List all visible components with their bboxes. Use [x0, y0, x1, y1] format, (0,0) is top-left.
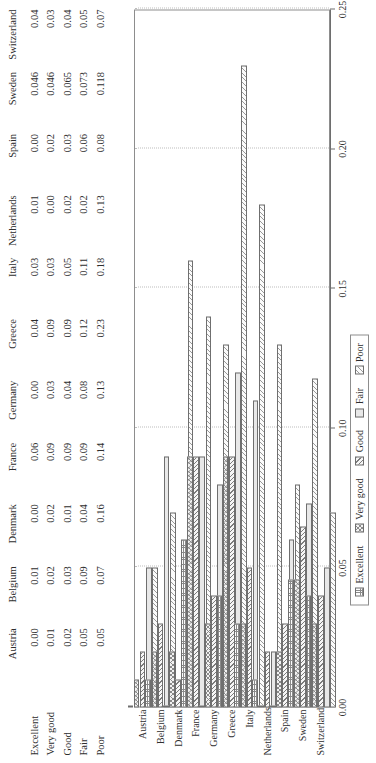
bar-switzerland-good: [318, 595, 324, 707]
legend-item-fair[interactable]: Fair: [354, 388, 365, 417]
legend-swatch-icon: [355, 408, 364, 417]
figure: AustriaBelgiumDenmarkFranceGermanyGreece…: [0, 0, 376, 763]
axis-tick: [330, 287, 335, 288]
table-row-header: Excellent: [26, 687, 43, 755]
bar-switzerland-very-good: [312, 623, 318, 707]
table-cell: 0.04: [26, 317, 43, 379]
table-cell: 0.06: [76, 131, 93, 192]
bar-belgium-very-good: [152, 651, 158, 707]
table-cell: 0.046: [26, 70, 43, 132]
axis-tick-label: 0.10: [337, 408, 348, 448]
bar-sweden-excellent: [288, 579, 294, 707]
table-cell: 0.07: [92, 564, 109, 626]
legend-swatch-icon: [355, 587, 364, 596]
table-cell: 0.065: [59, 70, 76, 132]
table-column-header-denmark: Denmark: [6, 502, 26, 564]
table-cell: 0.00: [26, 131, 43, 192]
table-cell: 0.08: [92, 131, 109, 192]
table-cell: 0.04: [59, 7, 76, 70]
table-cell: 0.03: [43, 255, 60, 316]
bar-belgium-good: [158, 623, 164, 707]
category-label-belgium: Belgium: [155, 709, 166, 755]
bar-denmark-excellent: [163, 705, 169, 707]
table-cell: 0.09: [59, 317, 76, 379]
category-label-switzerland: Switzerland: [315, 709, 326, 755]
axis-tick: [330, 8, 335, 9]
table-cell: 0.06: [26, 440, 43, 502]
rotated-figure-wrapper: AustriaBelgiumDenmarkFranceGermanyGreece…: [0, 0, 376, 763]
axis-tick-label: 0.05: [337, 547, 348, 587]
category-label-austria: Austria: [137, 709, 148, 755]
table-cell: 0.03: [59, 131, 76, 192]
table-cell: 0.04: [26, 7, 43, 70]
bar-italy-fair: [253, 400, 259, 707]
table-cell: 0.00: [26, 626, 43, 688]
legend-swatch-icon: [355, 366, 364, 375]
table-column-header-france: France: [6, 440, 26, 502]
table-cell: 0.03: [26, 255, 43, 316]
bar-switzerland-fair: [324, 567, 330, 707]
category-label-italy: Italy: [244, 709, 255, 755]
table-cell: 0.02: [59, 193, 76, 256]
table-cell: 0.09: [76, 564, 93, 626]
legend-label: Fair: [354, 388, 365, 404]
table-cell: 0.18: [92, 255, 109, 316]
bar-group-belgium: [152, 9, 170, 707]
category-label-spain: Spain: [279, 709, 290, 755]
table-cell: 0.02: [43, 131, 60, 192]
table-cell: 0.02: [43, 564, 60, 626]
legend-label: Very good: [354, 478, 365, 519]
table-row: Good0.020.030.010.090.040.090.050.020.03…: [59, 7, 76, 755]
bar-greece-very-good: [223, 456, 229, 707]
axis-tick-label: 0.00: [337, 687, 348, 727]
table-column-header-switzerland: Switzerland: [6, 7, 26, 70]
table-cell: 0.01: [43, 626, 60, 688]
bar-germany-very-good: [205, 623, 211, 707]
bar-group-italy: [241, 9, 259, 707]
legend-item-poor[interactable]: Poor: [354, 343, 365, 375]
data-table: AustriaBelgiumDenmarkFranceGermanyGreece…: [6, 7, 109, 755]
category-label-sweden: Sweden: [297, 709, 308, 755]
table-cell: 0.14: [92, 440, 109, 502]
bar-netherlands-good: [265, 651, 271, 707]
bar-denmark-very-good: [169, 651, 175, 707]
chart-block: 0.000.050.100.150.200.25 ExcellentVery g…: [132, 7, 370, 755]
bar-greece-excellent: [217, 595, 223, 707]
table-cell: 0.00: [43, 193, 60, 256]
table-cell: 0.03: [43, 7, 60, 70]
bar-spain-very-good: [276, 651, 282, 707]
legend-item-excellent[interactable]: Excellent: [354, 545, 365, 596]
bar-group-austria: [134, 9, 152, 707]
table-cell: 0.03: [59, 564, 76, 626]
table-cell: 0.05: [92, 626, 109, 688]
bar-group-netherlands: [259, 9, 277, 707]
bar-group-france: [187, 9, 205, 707]
category-label-france: France: [190, 709, 201, 755]
table-row: Fair0.050.090.040.090.080.120.110.020.06…: [76, 7, 93, 755]
table-cell: 0.13: [92, 193, 109, 256]
bar-belgium-excellent: [145, 679, 151, 707]
table-cell: 0.05: [76, 7, 93, 70]
chart-legend: ExcellentVery goodGoodFairPoor: [350, 334, 369, 605]
bar-switzerland-poor: [330, 512, 336, 707]
table-column-header-sweden: Sweden: [6, 70, 26, 132]
legend-item-very-good[interactable]: Very good: [354, 478, 365, 532]
table-column-header-spain: Spain: [6, 131, 26, 192]
category-label-netherlands: Netherlands: [262, 709, 273, 755]
bar-group-greece: [223, 9, 241, 707]
table-cell: 0.09: [76, 440, 93, 502]
legend-label: Excellent: [354, 545, 365, 583]
legend-item-good[interactable]: Good: [354, 430, 365, 465]
table-row-header: Fair: [76, 687, 93, 755]
table-header-row: AustriaBelgiumDenmarkFranceGermanyGreece…: [6, 7, 26, 755]
bar-france-excellent: [181, 539, 187, 707]
bar-netherlands-excellent: [252, 679, 258, 707]
table-cell: 0.05: [76, 626, 93, 688]
table-cell: 0.02: [43, 502, 60, 564]
table-cell: 0.01: [59, 502, 76, 564]
table-cell: 0.09: [43, 440, 60, 502]
table-cell: 0.04: [76, 502, 93, 564]
table-cell: 0.13: [92, 378, 109, 440]
table-cell: 0.04: [59, 378, 76, 440]
bar-france-good: [193, 456, 199, 707]
